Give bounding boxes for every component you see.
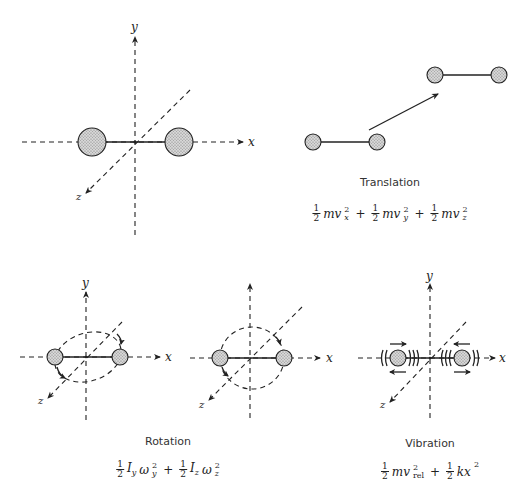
y-axis-label: y	[425, 269, 433, 283]
atom-left	[390, 350, 406, 366]
translation-equation: 12 mv 2x + 12 mv 2y + 12 mv 2z	[312, 204, 467, 223]
atom-right	[165, 128, 193, 156]
vibration-equation: 12 mv 2rel + 12 kx 2	[381, 462, 479, 481]
translation-caption: Translation	[360, 176, 420, 189]
z-axis-label: z	[75, 191, 82, 202]
axes-reference-panel: x y z	[22, 20, 255, 235]
y-axis-label: y	[130, 20, 138, 34]
y-axis-label: y	[81, 276, 89, 290]
center-of-mass	[429, 357, 432, 360]
atom-final-left	[427, 67, 443, 83]
z-axis-label: z	[379, 399, 386, 410]
vibration-panel: x y z	[358, 269, 506, 418]
atom-initial-left	[305, 134, 321, 150]
z-axis-label: z	[37, 395, 44, 406]
x-axis-label: x	[326, 351, 333, 365]
molecular-motion-diagram: x y z x y z x	[0, 0, 521, 495]
rotation-z-panel: x z	[190, 284, 333, 418]
atom-left	[78, 128, 106, 156]
atom-initial-right	[369, 134, 385, 150]
center-of-mass	[134, 141, 137, 144]
atom-final-right	[491, 67, 507, 83]
atom-left	[212, 350, 228, 366]
x-axis-label: x	[499, 351, 506, 365]
rotation-caption: Rotation	[145, 435, 191, 448]
atom-right	[454, 350, 470, 366]
rotation-arrow-icon	[117, 334, 121, 344]
x-axis-label: x	[248, 135, 255, 149]
center-of-mass	[85, 356, 88, 359]
atom-left	[47, 349, 63, 365]
rotation-y-panel: x y z	[20, 276, 172, 420]
translation-arrow-icon	[369, 94, 438, 130]
translation-panel	[305, 67, 507, 150]
rotation-arrow-icon	[276, 337, 280, 344]
vibration-caption: Vibration	[405, 437, 455, 450]
rotation-equation: 12 Iy ω 2y + 12 Iz ω 2z	[116, 460, 220, 479]
z-axis-label: z	[198, 399, 205, 410]
atom-right	[112, 349, 128, 365]
atom-right	[276, 350, 292, 366]
x-axis-label: x	[165, 350, 172, 364]
